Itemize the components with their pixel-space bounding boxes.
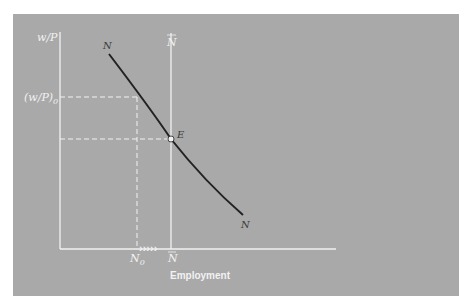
n-bar-label-bottom: N xyxy=(167,252,178,265)
curve-label-bottom: N xyxy=(240,219,251,230)
chart-svg: ››››› w/P (w/P)0 N N N E N0 N Employment xyxy=(0,0,470,302)
equilibrium-point xyxy=(168,136,174,142)
x-axis-label: Employment xyxy=(170,270,231,281)
y-axis-label: w/P xyxy=(37,31,58,44)
n-bar-label-top: N xyxy=(166,36,177,49)
employment-arrows: ››››› xyxy=(139,242,158,254)
n0-label: N0 xyxy=(129,252,145,267)
curve-label-top: N xyxy=(102,40,113,51)
y-tick-w-p0: (w/P)0 xyxy=(24,91,58,106)
labor-demand-curve xyxy=(109,54,243,215)
point-e-label: E xyxy=(176,129,185,140)
